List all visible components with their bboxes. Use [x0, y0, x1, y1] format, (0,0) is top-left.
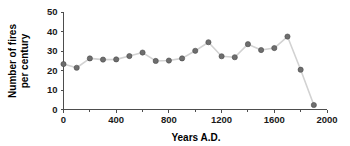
y-tick-label-0: 0	[52, 104, 57, 115]
x-tick-label-400: 400	[108, 114, 124, 125]
y-tick-label-10: 10	[47, 84, 58, 95]
data-point	[193, 48, 198, 53]
x-axis-title: Years A.D.	[171, 132, 220, 143]
x-tick-label-2000: 2000	[316, 114, 337, 125]
data-point	[285, 34, 290, 39]
x-tick-label-1600: 1600	[264, 114, 285, 125]
data-point	[272, 45, 277, 50]
data-point	[179, 56, 184, 61]
y-tick-label-30: 30	[47, 45, 58, 56]
data-point	[298, 67, 303, 72]
series-group	[61, 34, 317, 108]
y-tick-label-40: 40	[47, 26, 58, 37]
x-tick-label-800: 800	[161, 114, 177, 125]
data-point	[206, 40, 211, 45]
data-point	[166, 58, 171, 63]
data-point	[232, 55, 237, 60]
data-point	[87, 56, 92, 61]
y-axis-title-group: Number of fires per century	[7, 24, 30, 98]
x-tick-label-0: 0	[61, 114, 66, 125]
y-axis-group: 01020304050	[47, 6, 64, 115]
x-axis-title-group: Years A.D.	[171, 132, 220, 143]
data-point	[114, 57, 119, 62]
data-point	[311, 102, 316, 107]
x-tick-label-1200: 1200	[211, 114, 232, 125]
data-point	[140, 50, 145, 55]
data-point	[127, 53, 132, 58]
data-point	[219, 54, 224, 59]
fire-frequency-chart: 01020304050 0400800120016002000 Years A.…	[0, 0, 350, 146]
y-axis-tick-labels: 01020304050	[47, 6, 58, 115]
data-point	[74, 65, 79, 70]
data-point	[100, 57, 105, 62]
x-axis-group: 0400800120016002000	[61, 110, 338, 125]
chart-svg: 01020304050 0400800120016002000 Years A.…	[0, 0, 350, 146]
y-axis-title-line2: per century	[19, 33, 30, 88]
data-point	[245, 42, 250, 47]
y-tick-label-20: 20	[47, 65, 58, 76]
data-point	[61, 61, 66, 66]
data-point	[153, 58, 158, 63]
x-axis-tick-labels: 0400800120016002000	[61, 114, 338, 125]
y-tick-label-50: 50	[47, 6, 58, 17]
y-axis-title-line1: Number of fires	[7, 24, 18, 98]
data-point	[259, 47, 264, 52]
